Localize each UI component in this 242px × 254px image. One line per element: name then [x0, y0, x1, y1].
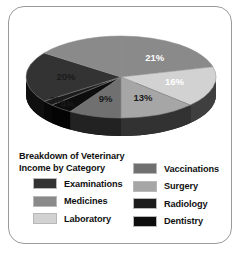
legend-column-left: Examinations Medicines Laboratory — [33, 176, 123, 229]
pie-slice-percent-label: 20% — [56, 71, 76, 82]
legend-item-vaccinations[interactable]: Vaccinations — [133, 161, 219, 176]
legend-swatch-surgery — [133, 181, 157, 192]
pie-chart-svg: 21%16%13%9%4%2%20% — [9, 9, 232, 149]
legend-swatch-dentistry — [133, 216, 157, 227]
legend-column-right: Vaccinations Surgery Radiology Dentistry — [133, 161, 219, 231]
legend-title-line-2: Income by Category — [19, 163, 141, 175]
legend-item-dentistry[interactable]: Dentistry — [133, 214, 219, 229]
legend-label-laboratory: Laboratory — [64, 214, 111, 224]
legend-title-line-1: Breakdown of Veterinary — [19, 151, 141, 163]
legend-title: Breakdown of Veterinary Income by Catego… — [19, 151, 141, 174]
legend-swatch-radiology — [133, 198, 157, 209]
legend-item-surgery[interactable]: Surgery — [133, 179, 219, 194]
legend-label-examinations: Examinations — [64, 179, 123, 189]
legend-swatch-vaccinations — [133, 163, 157, 174]
chart-card: 21%16%13%9%4%2%20% Breakdown of Veterina… — [8, 6, 232, 244]
pie-slice-percent-label: 13% — [133, 92, 153, 103]
legend-swatch-medicines — [33, 196, 57, 207]
legend-item-radiology[interactable]: Radiology — [133, 196, 219, 211]
legend-label-dentistry: Dentistry — [164, 216, 203, 226]
legend-swatch-laboratory — [33, 213, 57, 224]
legend-label-vaccinations: Vaccinations — [164, 164, 219, 174]
pie-slice-percent-label: 16% — [165, 76, 185, 87]
legend-label-radiology: Radiology — [164, 199, 208, 209]
chart-legend: Breakdown of Veterinary Income by Catego… — [9, 147, 232, 244]
pie-chart: 21%16%13%9%4%2%20% — [9, 9, 232, 149]
legend-item-laboratory[interactable]: Laboratory — [33, 211, 123, 226]
legend-item-examinations[interactable]: Examinations — [33, 176, 123, 191]
legend-label-surgery: Surgery — [164, 181, 198, 191]
pie-slice-percent-label: 21% — [145, 52, 165, 63]
pie-slice-percent-label: 9% — [99, 93, 113, 104]
pie-slices — [26, 36, 216, 136]
pie-slice-percent-label: 2% — [50, 94, 64, 105]
legend-swatch-examinations — [33, 178, 57, 189]
legend-label-medicines: Medicines — [64, 196, 108, 206]
legend-item-medicines[interactable]: Medicines — [33, 194, 123, 209]
